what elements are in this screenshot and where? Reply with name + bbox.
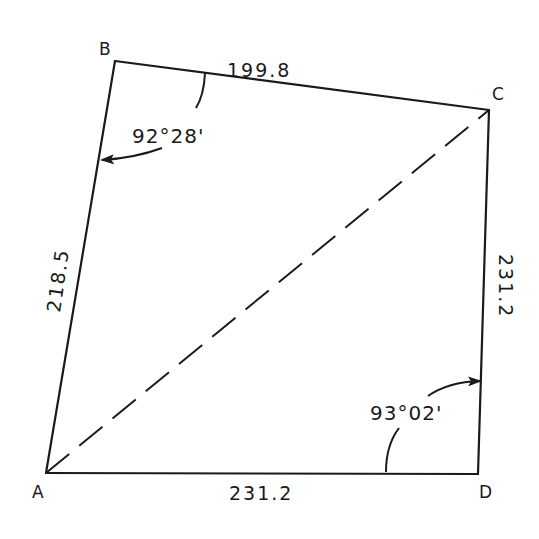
angle-b-arrow	[102, 148, 162, 160]
vertex-label-a: A	[32, 482, 44, 502]
angle-label-b: 92°28'	[132, 124, 204, 148]
vertex-label-d: D	[479, 482, 492, 502]
angle-d-arrow	[428, 381, 480, 396]
angle-b-arc-top	[196, 73, 205, 108]
side-label-da: 231.2	[229, 482, 293, 504]
quadrilateral-diagram: A B C D 199.8 231.2 218.5 231.2 92°28' 9…	[0, 0, 539, 539]
side-label-cd: 231.2	[495, 254, 517, 318]
side-da	[46, 473, 478, 474]
side-label-bc: 199.8	[227, 59, 291, 81]
side-label-ab: 218.5	[42, 247, 73, 314]
side-bc	[115, 61, 489, 110]
vertex-label-c: C	[492, 84, 504, 104]
vertex-label-b: B	[99, 39, 111, 59]
side-cd	[478, 110, 489, 474]
angle-label-d: 93°02'	[370, 401, 442, 425]
angle-d-arc-bottom	[386, 428, 399, 472]
